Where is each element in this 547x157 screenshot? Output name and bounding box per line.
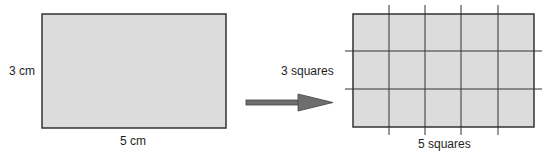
diagram-canvas <box>0 0 547 157</box>
arrow-icon <box>246 94 333 111</box>
rows-label-squares: 3 squares <box>281 64 334 78</box>
rectangle-3x5-cm <box>42 14 226 128</box>
grid-rectangle-3x5-squares <box>345 5 542 135</box>
height-label-cm: 3 cm <box>9 64 35 78</box>
cols-label-squares: 5 squares <box>418 137 471 151</box>
width-label-cm: 5 cm <box>120 134 146 148</box>
